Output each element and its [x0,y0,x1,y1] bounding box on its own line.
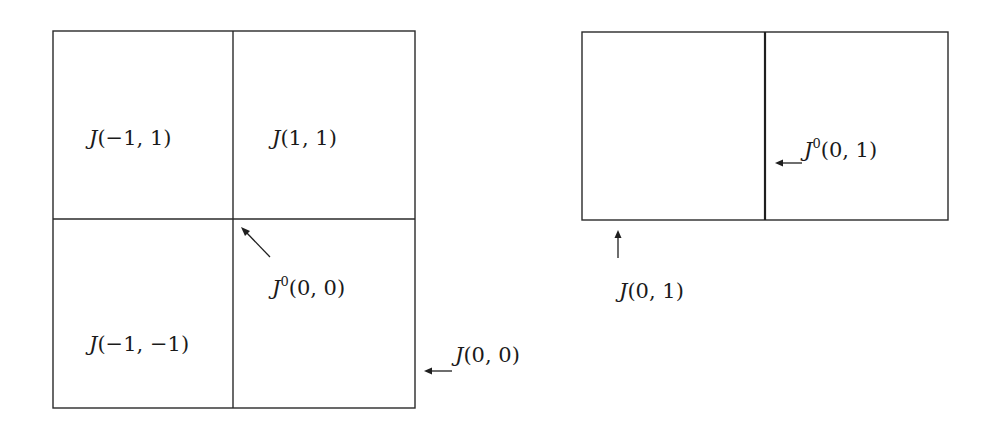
right-rectangle-panel: J0(0, 1) J(0, 1) [582,32,948,303]
left-square-panel: J(−1, 1) J(1, 1) J(−1, −1) J0(0, 0) J(0,… [53,31,520,408]
label-j-0-0: J(0, 0) [451,343,520,367]
label-j-minus1-minus1: J(−1, −1) [85,332,189,356]
label-j-minus1-1: J(−1, 1) [85,126,171,150]
label-j-0-1: J(0, 1) [615,279,684,303]
arrow-head-up-icon [615,230,622,238]
arrow-to-center [245,231,270,257]
arrow-head-left-icon [775,160,783,167]
label-j-1-1: J(1, 1) [268,126,337,150]
domain-diagram: J(−1, 1) J(1, 1) J(−1, −1) J0(0, 0) J(0,… [0,0,1001,431]
label-j0-0-1: J0(0, 1) [800,136,877,162]
arrow-head-left-icon [424,368,432,375]
label-j0-0-0: J0(0, 0) [268,274,345,300]
